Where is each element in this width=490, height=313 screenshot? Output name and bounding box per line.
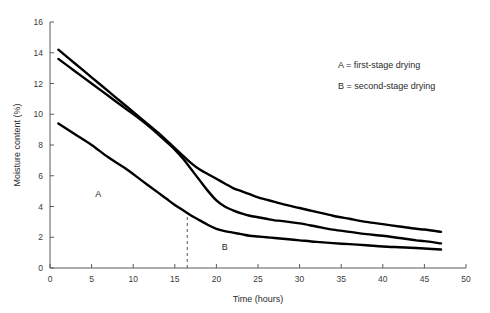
y-tick-label: 0: [38, 263, 43, 273]
y-tick-label: 2: [38, 232, 43, 242]
x-axis-title: Time (hours): [233, 294, 284, 304]
series-lower-curve: [58, 123, 441, 249]
y-tick-label: 16: [34, 17, 44, 27]
legend-entry-b: B = second-stage drying: [338, 81, 435, 91]
x-tick-label: 30: [295, 274, 305, 284]
x-tick-label: 25: [253, 274, 263, 284]
y-tick-label: 14: [34, 48, 44, 58]
legend-entry-a: A = first-stage drying: [338, 60, 420, 70]
x-tick-label: 35: [336, 274, 346, 284]
chart-plot: 05101520253035404550 0246810121416 AB A …: [0, 0, 490, 313]
y-tick-label: 8: [38, 140, 43, 150]
stage-a-label: A: [95, 189, 101, 199]
stage-b-label: B: [222, 242, 228, 252]
y-axis-title: Moisture content (%): [12, 103, 22, 186]
x-tick-label: 50: [461, 274, 471, 284]
x-tick-label: 0: [48, 274, 53, 284]
y-tick-group: 0246810121416: [34, 17, 54, 273]
y-tick-label: 10: [34, 109, 44, 119]
axis-title-group: Time (hours)Moisture content (%): [12, 103, 283, 304]
x-tick-label: 15: [170, 274, 180, 284]
y-tick-label: 6: [38, 171, 43, 181]
x-tick-label: 20: [212, 274, 222, 284]
y-tick-label: 4: [38, 202, 43, 212]
x-tick-label: 5: [89, 274, 94, 284]
x-tick-label: 10: [128, 274, 138, 284]
annotation-group: AB: [95, 189, 227, 252]
chart-container: 05101520253035404550 0246810121416 AB A …: [0, 0, 490, 313]
series-upper-curve: [58, 50, 441, 232]
series-group: [58, 50, 441, 250]
axes-group: [50, 22, 466, 268]
x-tick-label: 40: [378, 274, 388, 284]
legend-group: A = first-stage dryingB = second-stage d…: [338, 60, 435, 91]
x-tick-label: 45: [420, 274, 430, 284]
y-tick-label: 12: [34, 79, 44, 89]
x-tick-group: 05101520253035404550: [48, 264, 471, 284]
